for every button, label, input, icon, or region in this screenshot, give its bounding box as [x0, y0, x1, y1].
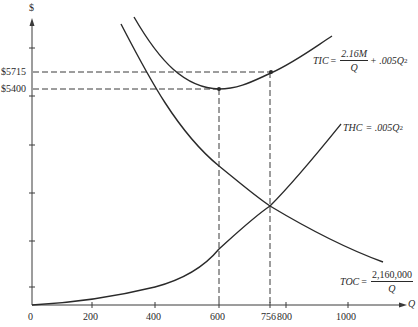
tic-numerator: 2.16M — [340, 48, 368, 61]
toc-equation-label: TOC = 2,160,000 Q — [340, 269, 415, 294]
x-label-800: 800 — [277, 312, 292, 322]
x-axis-label: Q — [408, 299, 415, 309]
y-axis-arrow-icon — [30, 18, 35, 26]
thc-equation-label: THC = .005Q2 — [343, 122, 403, 133]
x-label-200: 200 — [83, 312, 98, 322]
thc-name: THC — [343, 122, 362, 133]
y-label-5715: $5715 — [1, 67, 26, 77]
thc-rest: = .005Q — [365, 122, 399, 133]
x-label-600: 600 — [210, 312, 225, 322]
tic-rest: + .005Q — [370, 55, 404, 66]
tic-minimum-point — [217, 87, 221, 91]
toc-denominator: Q — [388, 282, 395, 294]
tic-equals: = — [331, 55, 337, 66]
x-label-756: 756 — [261, 312, 276, 322]
tic-name: TIC — [313, 55, 329, 66]
y-label-5400: $5400 — [1, 84, 26, 94]
thc-curve — [32, 124, 341, 305]
tic-curve — [134, 17, 332, 89]
toc-name: TOC — [340, 276, 359, 287]
x-label-400: 400 — [146, 312, 161, 322]
tic-denominator: Q — [351, 61, 358, 73]
tic-equation-label: TIC = 2.16M Q + .005Q2 — [313, 48, 408, 73]
toc-fraction: 2,160,000 Q — [371, 269, 413, 294]
x-label-1000: 1000 — [336, 312, 356, 322]
tic-756-point — [269, 70, 273, 74]
x-label-0: 0 — [28, 312, 33, 322]
toc-equals: = — [361, 276, 367, 287]
toc-numerator: 2,160,000 — [371, 269, 413, 282]
y-axis-label: $ — [29, 3, 34, 13]
x-axis-arrow-icon — [399, 303, 407, 308]
tic-fraction: 2.16M Q — [340, 48, 368, 73]
